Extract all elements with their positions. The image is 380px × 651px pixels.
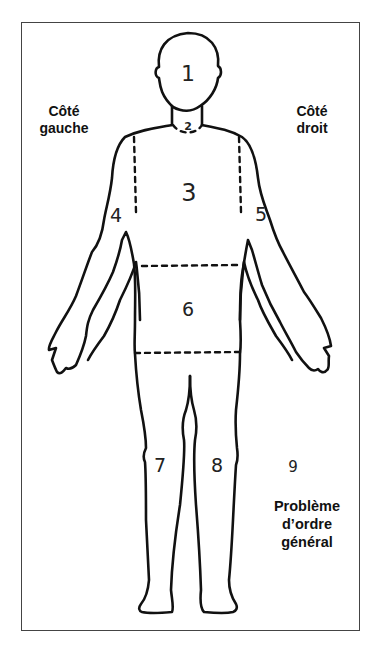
region-6-abdomen[interactable]: 6 — [182, 298, 194, 320]
region-7-left-leg[interactable]: 7 — [154, 454, 166, 476]
left-side-label: Côté gauche — [32, 103, 96, 137]
region-9-general[interactable]: 9 — [288, 458, 298, 476]
left-body-outline — [49, 125, 190, 613]
hip-dashed-line — [135, 352, 240, 353]
right-inner-arm — [240, 262, 292, 360]
general-label-line1: Problème — [258, 497, 356, 515]
right-side-label-line1: Côté — [282, 103, 342, 120]
left-shoulder-dashed-line — [134, 137, 136, 212]
region-3-chest[interactable]: 3 — [181, 179, 196, 207]
general-label-line3: général — [258, 533, 356, 551]
right-side-label: Côté droit — [282, 103, 342, 137]
left-side-label-line2: gauche — [32, 120, 96, 137]
region-8-right-leg[interactable]: 8 — [211, 454, 223, 476]
waist-dashed-line — [142, 265, 237, 266]
region-4-left-arm[interactable]: 4 — [110, 204, 122, 226]
region-5-right-arm[interactable]: 5 — [255, 203, 267, 225]
right-side-label-line2: droit — [282, 120, 342, 137]
region-1-head[interactable]: 1 — [181, 61, 195, 86]
right-shoulder-dashed-line — [239, 137, 241, 212]
general-label-line2: d’ordre — [258, 515, 356, 533]
left-inner-arm — [88, 262, 140, 360]
general-problem-label: Problème d’ordre général — [258, 497, 356, 551]
left-side-label-line1: Côté — [32, 103, 96, 120]
region-2-neck[interactable]: 2 — [184, 120, 192, 133]
body-outline — [0, 0, 380, 651]
